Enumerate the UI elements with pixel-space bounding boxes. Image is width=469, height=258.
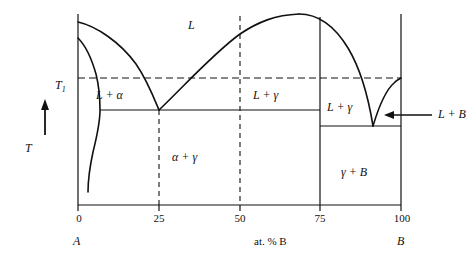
phase-label-liquid-plus-gamma-left: L + γ bbox=[253, 89, 278, 101]
phase-label-gamma-plus-b: γ + B bbox=[341, 166, 367, 178]
x-tick-label-0: 0 bbox=[72, 213, 86, 224]
liquidus-curve-right bbox=[373, 78, 401, 126]
l-plus-b-pointer-arrow bbox=[384, 111, 432, 119]
phase-label-liquid-plus-b: L + B bbox=[438, 108, 466, 120]
phase-label-alpha-plus-gamma: α + γ bbox=[172, 151, 197, 163]
phase-label-liquid-plus-alpha: L + α bbox=[96, 89, 123, 101]
alpha-phase-boundary-curve bbox=[78, 38, 100, 192]
x-tick-label-75: 75 bbox=[311, 213, 329, 224]
temperature-reference-label: T1 bbox=[55, 79, 66, 94]
component-label-b: B bbox=[397, 235, 404, 247]
x-tick-label-50: 50 bbox=[231, 213, 249, 224]
x-tick-label-100: 100 bbox=[390, 213, 414, 224]
y-axis-label: T bbox=[25, 142, 32, 154]
phase-label-liquid: L bbox=[188, 19, 195, 31]
temperature-reference-subscript: 1 bbox=[62, 85, 66, 94]
phase-diagram-figure: L L + α L + γ L + γ L + B α + γ γ + B T1… bbox=[0, 0, 469, 258]
temperature-direction-arrow bbox=[41, 99, 49, 135]
phase-label-liquid-plus-gamma-right: L + γ bbox=[327, 101, 352, 113]
component-label-a: A bbox=[73, 235, 80, 247]
temperature-reference-symbol: T bbox=[55, 78, 62, 92]
x-tick-label-25: 25 bbox=[150, 213, 168, 224]
x-axis-label: at. % B bbox=[254, 236, 287, 247]
